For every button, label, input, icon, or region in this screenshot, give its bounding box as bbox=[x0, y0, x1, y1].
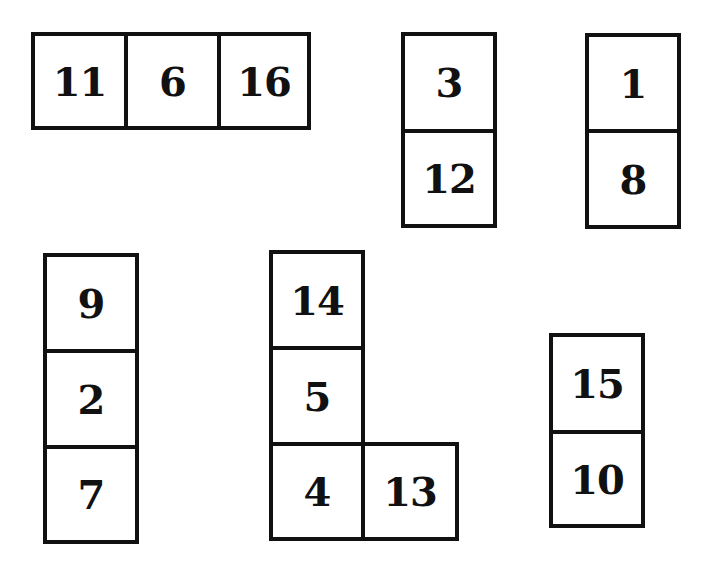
cell-7: 7 bbox=[43, 445, 139, 544]
cell-12: 12 bbox=[401, 129, 497, 228]
cell-4: 4 bbox=[269, 442, 365, 541]
cell-14: 14 bbox=[269, 250, 365, 350]
cell-15: 15 bbox=[549, 333, 645, 434]
cell-3: 3 bbox=[401, 32, 497, 133]
cell-2: 2 bbox=[43, 349, 139, 449]
cell-9: 9 bbox=[43, 253, 139, 353]
cell-8: 8 bbox=[585, 129, 681, 229]
cell-5: 5 bbox=[269, 346, 365, 446]
cell-13: 13 bbox=[361, 442, 459, 541]
cell-10: 10 bbox=[549, 430, 645, 528]
cell-16: 16 bbox=[217, 32, 311, 130]
cell-11: 11 bbox=[31, 32, 128, 130]
cell-6: 6 bbox=[124, 32, 221, 130]
cell-1: 1 bbox=[585, 33, 681, 133]
